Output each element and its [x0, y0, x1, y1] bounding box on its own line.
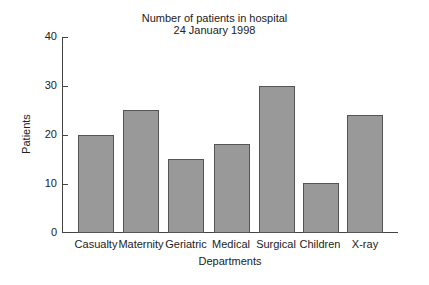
y-tick [62, 184, 68, 185]
bar-maternity [123, 110, 159, 233]
y-tick-label: 40 [27, 30, 57, 42]
y-tick [62, 37, 68, 38]
bar-xray [347, 115, 383, 233]
x-axis-title: Departments [0, 255, 429, 267]
bar-children [303, 183, 339, 233]
x-tick-label: X-ray [335, 238, 395, 250]
chart-title: Number of patients in hospital [0, 12, 429, 24]
y-tick-label: 30 [27, 79, 57, 91]
bar-geriatric [168, 159, 204, 233]
y-tick-label: 10 [27, 177, 57, 189]
bar-casualty [78, 135, 114, 234]
y-tick-label: 20 [27, 128, 57, 140]
y-tick [62, 135, 68, 136]
y-tick-label: 0 [27, 226, 57, 238]
chart-subtitle: 24 January 1998 [0, 24, 429, 36]
bar-surgical [259, 86, 295, 233]
y-tick [62, 86, 68, 87]
bar-medical [214, 144, 250, 233]
